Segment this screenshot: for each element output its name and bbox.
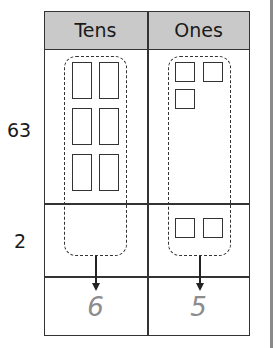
tens-rod [72,62,92,99]
ones-unit [203,218,223,238]
page-margin-rule [270,0,273,348]
tens-rod [99,154,119,191]
ones-unit [175,89,195,109]
tens-rod [72,108,92,145]
ones-unit [175,218,195,238]
row-label-2: 2 [14,230,26,252]
tens-rod [99,108,119,145]
header-tens: Tens [44,11,147,50]
tens-rod [72,154,92,191]
result-tens: 6 [44,278,147,336]
result-ones: 5 [147,278,250,336]
header-ones: Ones [147,11,250,50]
ones-unit [203,62,223,82]
ones-unit [175,62,195,82]
tens-rod [99,62,119,99]
row-label-63: 63 [7,119,31,141]
